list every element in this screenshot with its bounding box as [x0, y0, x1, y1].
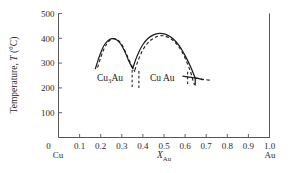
phase-diagram-figure: 500400300200100 00.10.20.30.40.50.60.70.… [0, 0, 307, 173]
x-title-subscript: Au [163, 155, 172, 162]
x-axis-title: XAu [156, 150, 172, 162]
y-tick-label: 100 [41, 108, 55, 118]
phase-label-cu3au-main: Cu [97, 73, 108, 83]
x-tick-label: 1.0 [264, 141, 276, 151]
y-title-prefix: Temperature, [9, 61, 19, 114]
y-tick-label: 400 [41, 34, 55, 44]
x-tick-label: 0.3 [116, 141, 128, 151]
y-axis-ticks [59, 14, 63, 113]
phase-boundary-curve [98, 39, 135, 72]
x-endpoint-right-label: Au [265, 150, 276, 160]
x-tick-label: 0.7 [201, 141, 213, 151]
x-endpoint-left-label: Cu [53, 150, 64, 160]
svg-text:XAu: XAu [156, 150, 172, 162]
y-tick-label: 200 [41, 83, 55, 93]
phase-label-cu3au-tail: Au [112, 73, 124, 83]
x-tick-label: 0.1 [74, 141, 85, 151]
y-tick-label: 300 [41, 58, 55, 68]
x-tick-label: 0.4 [137, 141, 149, 151]
y-axis-tick-labels: 500400300200100 [41, 9, 55, 118]
y-axis-title: Temperature, T (°C) [9, 37, 20, 114]
y-title-units: (°C) [9, 37, 20, 56]
phase-boundary-curve [133, 33, 195, 78]
phase-boundary-curve [95, 39, 132, 69]
x-tick-label: 0.2 [95, 141, 106, 151]
x-tick-label: 0.6 [179, 141, 191, 151]
y-tick-label: 500 [41, 9, 55, 19]
svg-text:Temperature, T (°C): Temperature, T (°C) [9, 37, 20, 114]
x-tick-label: 0 [46, 141, 51, 151]
x-tick-label: 0.9 [243, 141, 255, 151]
x-tick-label: 0.5 [158, 141, 170, 151]
phase-label-cuau: Cu Au [150, 73, 175, 83]
x-axis-tick-labels: 00.10.20.30.40.50.60.70.80.91.0 [46, 141, 275, 151]
x-tick-label: 0.8 [222, 141, 234, 151]
phase-label-cu3au: Cu3Au [97, 73, 123, 84]
x-axis-ticks [80, 134, 270, 138]
phase-diagram-plot: 500400300200100 00.10.20.30.40.50.60.70.… [0, 0, 307, 173]
